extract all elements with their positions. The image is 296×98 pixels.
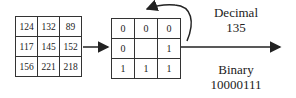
pixel-cell: 117 — [16, 37, 38, 57]
pixel-cell: 89 — [60, 17, 82, 37]
decimal-value: 135 — [196, 20, 276, 35]
pixel-cell: 156 — [16, 57, 38, 77]
binary-cell: 0 — [158, 19, 181, 39]
binary-cell-center — [135, 39, 158, 59]
pixel-value-grid: 124 132 89 117 145 152 156 221 218 — [15, 16, 82, 77]
binary-cell: 1 — [135, 59, 158, 79]
binary-cell: 0 — [112, 39, 135, 59]
binary-cell: 1 — [158, 39, 181, 59]
binary-title: Binary — [196, 62, 276, 77]
binary-threshold-grid: 0 0 0 0 1 1 1 1 — [111, 18, 181, 79]
binary-cell: 0 — [112, 19, 135, 39]
pixel-cell: 221 — [38, 57, 60, 77]
binary-cell: 0 — [135, 19, 158, 39]
pixel-cell-center: 145 — [38, 37, 60, 57]
binary-cell: 1 — [112, 59, 135, 79]
binary-output: Binary 10000111 — [196, 62, 276, 92]
pixel-cell: 152 — [60, 37, 82, 57]
binary-value: 10000111 — [196, 77, 276, 92]
pixel-cell: 132 — [38, 17, 60, 37]
pixel-cell: 218 — [60, 57, 82, 77]
decimal-title: Decimal — [196, 5, 276, 20]
decimal-output: Decimal 135 — [196, 5, 276, 35]
pixel-cell: 124 — [16, 17, 38, 37]
binary-cell: 1 — [158, 59, 181, 79]
